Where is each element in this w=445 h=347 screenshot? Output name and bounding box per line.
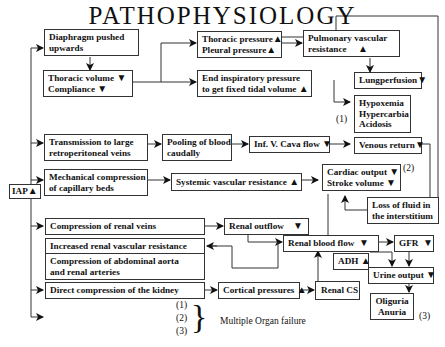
node-pulmonary-vascular: Pulmonary vascular resistance ▲ [303, 30, 400, 57]
legend-item-2: (2) [176, 313, 187, 323]
node-hypoxemia: Hypoxemia Hypercarbia Acidosis [354, 95, 411, 133]
node-venous-return: Venous return▼ [354, 137, 422, 154]
legend-item-1: (1) [176, 300, 187, 310]
node-transmission: Transmission to large retroperitoneal ve… [44, 134, 148, 161]
node-oliguria: Oliguria Anuria [370, 293, 414, 320]
legend-item-3: (3) [176, 326, 187, 336]
marker-1: (1) [336, 114, 347, 124]
node-compression-aorta: Compression of abdominal aorta and renal… [45, 253, 205, 280]
node-urine-output: Urine output ▼ [368, 267, 434, 284]
node-loss-of-fluid: Loss of fluid in the interstitium [367, 197, 439, 224]
node-iap: IAP▲ [9, 184, 41, 199]
node-mechanical-compression: Mechanical compression of capillary beds [44, 169, 148, 196]
node-end-inspiratory: End inspiratory pressure to get fixed ti… [197, 70, 312, 97]
node-pooling: Pooling of blood caudally [162, 134, 232, 161]
node-cardiac-output: Cardiac output ▼ Stroke volume ▼ [322, 164, 401, 191]
node-ivc-flow: Inf. V. Cava flow ▼ [249, 136, 330, 153]
node-compression-renal-veins: Compression of renal veins [45, 218, 205, 235]
node-lungperfusion: Lungperfusion▼ [354, 72, 422, 89]
node-thoracic-pressure: Thoracic pressure▲ Pleural pressure▲ [197, 31, 282, 58]
node-diaphragm: Diaphragm pushed upwards [44, 29, 139, 56]
node-direct-compression: Direct compression of the kidney [45, 282, 205, 299]
node-renal-cs: Renal CS [315, 281, 360, 300]
marker-2: (2) [403, 163, 414, 173]
legend-brace: } [191, 297, 207, 337]
node-renal-outflow: Compression of renal veins Renal outflow… [224, 218, 309, 235]
node-adh: ADH ▲ [333, 253, 369, 270]
node-cortical-pressures: Cortical pressures ▲ [218, 282, 300, 299]
node-thoracic-volume: Thoracic volume ▼ Compliance ▼ [43, 70, 133, 97]
marker-3: (3) [419, 311, 430, 321]
legend-label: Multiple Organ failure [220, 316, 306, 326]
page-title: PATHOPHYSIOLOGY [0, 2, 445, 30]
node-gfr: GFR ▼ [394, 235, 434, 252]
node-systemic-vascular: Systemic vascular resistance ▲ [171, 173, 302, 191]
node-renal-blood-flow: Renal blood flow ▼ [283, 235, 379, 252]
